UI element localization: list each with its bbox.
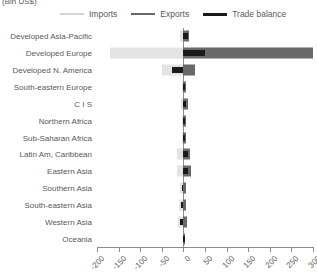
legend-label: Imports xyxy=(89,9,117,19)
chart-axis-title: (Bln US$) xyxy=(2,0,37,6)
bar-balance xyxy=(183,135,185,141)
chart-legend: ImportsExportsTrade balance xyxy=(60,9,286,19)
bar-exports xyxy=(183,216,187,227)
legend-item: Trade balance xyxy=(203,9,286,19)
bar-balance xyxy=(180,219,183,225)
bar-balance xyxy=(183,151,187,157)
axis-tick xyxy=(291,247,292,252)
bar-balance xyxy=(183,33,188,39)
bars-layer xyxy=(0,28,317,247)
axis-tick xyxy=(119,247,120,252)
axis-tick-label: -100 xyxy=(132,254,150,272)
axis-tick-label: 50 xyxy=(202,254,215,267)
axis-tick-label: 300 xyxy=(307,254,317,270)
legend-swatch xyxy=(131,13,155,15)
axis-tick-label: 100 xyxy=(220,254,236,270)
bar-balance xyxy=(183,118,184,124)
bar-balance xyxy=(183,101,186,107)
legend-swatch xyxy=(60,13,84,15)
legend-label: Exports xyxy=(160,9,189,19)
legend-item: Imports xyxy=(60,9,117,19)
axis-tick xyxy=(97,247,98,252)
axis-tick-label: 200 xyxy=(263,254,279,270)
bar-balance xyxy=(183,168,188,174)
axis-tick-label: 150 xyxy=(242,254,258,270)
legend-swatch xyxy=(203,13,227,16)
axis-tick xyxy=(205,247,206,252)
axis-tick-label: -200 xyxy=(89,254,107,272)
bar-balance xyxy=(182,185,183,191)
axis-tick xyxy=(183,247,184,252)
axis-tick xyxy=(270,247,271,252)
axis-tick xyxy=(227,247,228,252)
bar-exports xyxy=(183,65,195,76)
trade-bar-chart: (Bln US$) ImportsExportsTrade balance De… xyxy=(0,0,317,279)
legend-item: Exports xyxy=(131,9,189,19)
axis-tick-label: -50 xyxy=(157,254,172,269)
bar-imports xyxy=(110,48,183,59)
axis-tick xyxy=(248,247,249,252)
legend-label: Trade balance xyxy=(232,9,286,19)
bar-exports xyxy=(183,199,186,210)
bar-balance xyxy=(183,84,184,90)
value-axis: -200-150-100-50050100150200250300 xyxy=(0,247,317,279)
axis-tick xyxy=(162,247,163,252)
bar-balance xyxy=(183,236,184,242)
bar-balance xyxy=(183,50,205,56)
bar-balance xyxy=(181,202,183,208)
bar-balance xyxy=(172,67,183,73)
axis-tick-label: 0 xyxy=(183,254,193,264)
axis-tick xyxy=(140,247,141,252)
axis-tick xyxy=(313,247,314,252)
axis-tick-label: -150 xyxy=(110,254,128,272)
bar-exports xyxy=(183,183,186,194)
axis-tick-label: 250 xyxy=(285,254,301,270)
plot-area: Developed Asia-PacificDeveloped EuropeDe… xyxy=(0,28,317,247)
